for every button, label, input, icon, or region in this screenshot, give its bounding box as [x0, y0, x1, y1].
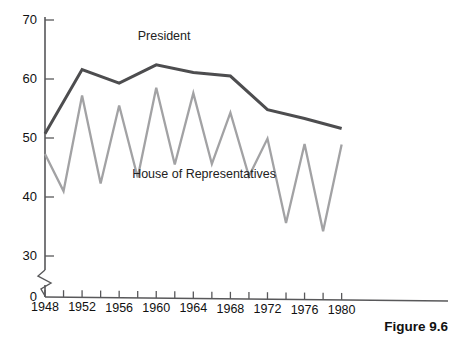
x-tick-label-group: 194819521956196019641968197219761980	[31, 300, 355, 317]
y-tick-label-60: 60	[23, 71, 37, 86]
y-axis-tick-group	[45, 20, 54, 256]
y-tick-label-70: 70	[23, 12, 37, 27]
x-tick-label-1960: 1960	[142, 301, 170, 315]
series-group	[45, 65, 342, 231]
x-tick-label-1948: 1948	[31, 300, 59, 314]
x-tick-label-1952: 1952	[68, 300, 96, 314]
series-line-president	[45, 65, 342, 134]
x-tick-label-1976: 1976	[291, 303, 319, 317]
x-tick-label-1968: 1968	[216, 302, 244, 316]
y-tick-label-50: 50	[23, 130, 37, 145]
figure-caption: Figure 9.6	[384, 319, 448, 334]
x-tick-label-1972: 1972	[254, 302, 282, 316]
line-chart: 70605040300 1948195219561960196419681972…	[0, 0, 454, 337]
series-label-president: President	[138, 29, 191, 43]
y-tick-label-40: 40	[23, 189, 37, 204]
figure-container: 70605040300 1948195219561960196419681972…	[0, 0, 454, 337]
x-tick-label-1964: 1964	[179, 301, 207, 315]
x-tick-label-1956: 1956	[105, 301, 133, 315]
series-line-house-of-representatives	[45, 88, 342, 231]
y-tick-label-30: 30	[23, 248, 37, 263]
y-tick-label-group: 70605040300	[23, 12, 37, 304]
x-tick-label-1980: 1980	[328, 303, 356, 317]
series-label-house-of-representatives: House of Representatives	[132, 167, 276, 181]
